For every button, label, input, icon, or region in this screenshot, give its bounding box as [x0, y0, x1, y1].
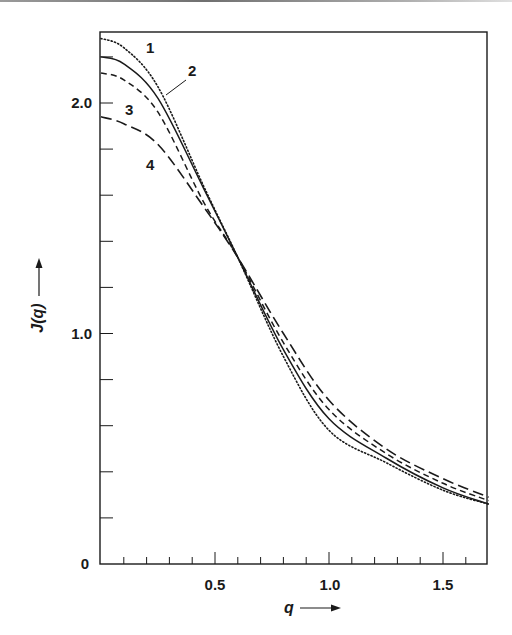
- curve-2-solid: [101, 57, 489, 504]
- x-tick-label-0-5: 0.5: [205, 576, 226, 593]
- y-axis-arrow-icon: [36, 258, 43, 296]
- curve-4-long-dash: [101, 117, 489, 497]
- curve-label-2-leader: [166, 80, 186, 95]
- curve-label-3: 3: [125, 101, 133, 118]
- y-tick-label-2-0: 2.0: [71, 94, 92, 111]
- curve-label-1: 1: [146, 39, 154, 56]
- axis-ticks: [100, 57, 466, 564]
- curve-label-4: 4: [146, 156, 155, 173]
- origin-label: 0: [81, 555, 89, 572]
- curve-3-short-dash: [101, 73, 489, 501]
- y-axis-label: J(q): [29, 303, 46, 332]
- chart-svg: 0 0.5 1.0 1.5 2.0 1.0 q J(q) 1 2 3 4: [0, 0, 512, 635]
- curve-1-dotted: [101, 39, 489, 505]
- x-axis-arrow-icon: [300, 605, 341, 612]
- y-tick-label-1-0: 1.0: [71, 325, 92, 342]
- curve-label-2: 2: [188, 62, 196, 79]
- x-axis-label: q: [284, 599, 294, 616]
- x-tick-label-1-0: 1.0: [320, 576, 341, 593]
- x-tick-label-1-5: 1.5: [433, 576, 454, 593]
